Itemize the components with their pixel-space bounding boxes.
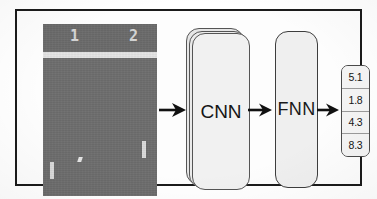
output-value-0: 5.1 — [342, 66, 369, 89]
pong-game-frame: 1 2 — [43, 24, 157, 196]
pong-paddle-left — [50, 162, 54, 179]
fnn-label: FNN — [278, 99, 316, 120]
cnn-label: CNN — [192, 33, 250, 190]
pong-play-field — [43, 58, 157, 196]
output-vector: 5.1 1.8 4.3 8.3 — [341, 65, 370, 157]
output-value-3: 8.3 — [342, 134, 369, 156]
fnn-block: FNN — [275, 31, 318, 188]
pong-ball — [77, 157, 83, 162]
pong-scorebar: 1 2 — [43, 24, 157, 50]
pong-score-right: 2 — [129, 27, 138, 45]
pong-paddle-right — [142, 141, 146, 158]
pong-score-left: 1 — [70, 27, 79, 45]
output-value-2: 4.3 — [342, 112, 369, 135]
arrow-cnn-to-fnn-icon — [248, 101, 272, 119]
arrow-input-to-cnn-icon — [159, 101, 186, 119]
cnn-block: CNN — [186, 28, 251, 191]
output-value-1: 1.8 — [342, 89, 369, 112]
arrow-fnn-to-output-icon — [317, 101, 339, 119]
figure-canvas: 1 2 CNN — [0, 0, 377, 199]
figure-border: 1 2 CNN — [15, 9, 362, 186]
